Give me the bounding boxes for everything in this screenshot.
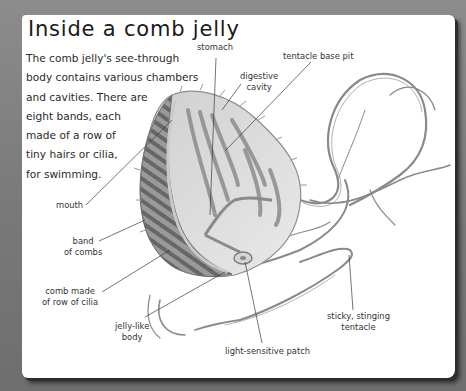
comb-jelly-illustration	[0, 0, 466, 391]
label-tentacle-base-pit: tentacle base pit	[283, 51, 353, 62]
label-text: of combs	[64, 247, 102, 258]
label-text: comb made	[42, 286, 98, 297]
label-stomach: stomach	[197, 42, 233, 53]
label-mouth: mouth	[56, 200, 83, 211]
comb-jelly-body	[134, 84, 307, 277]
label-text: tentacle	[327, 322, 390, 333]
label-text: jelly-like	[115, 321, 149, 332]
label-comb-made-of-cilia: comb made of row of cilia	[42, 286, 98, 308]
label-text: stomach	[197, 42, 233, 53]
label-text: body	[115, 332, 149, 343]
label-digestive-cavity: digestive cavity	[240, 71, 278, 93]
label-text: light-sensitive patch	[225, 346, 310, 357]
label-sticky-stinging-tentacle: sticky, stinging tentacle	[327, 311, 390, 333]
label-text: digestive	[240, 71, 278, 82]
label-text: sticky, stinging	[327, 311, 390, 322]
label-text: cavity	[240, 82, 278, 93]
label-light-sensitive-patch: light-sensitive patch	[225, 346, 310, 357]
label-text: band	[64, 236, 102, 247]
label-text: of row of cilia	[42, 297, 98, 308]
label-text: mouth	[56, 200, 83, 211]
label-text: tentacle base pit	[283, 51, 353, 62]
label-jelly-like-body: jelly-like body	[115, 321, 149, 343]
label-band-of-combs: band of combs	[64, 236, 102, 258]
